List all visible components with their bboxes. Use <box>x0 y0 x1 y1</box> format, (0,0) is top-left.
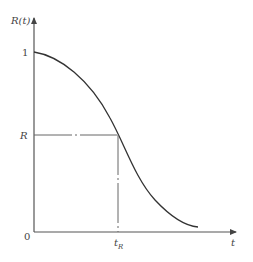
reliability-curve <box>34 52 198 227</box>
y-tick-one: 1 <box>22 47 28 58</box>
reliability-chart: R(t) 1 R 0 tR t <box>0 0 253 262</box>
x-tick-tr: tR <box>114 237 124 251</box>
y-tick-r: R <box>19 130 28 141</box>
x-axis-label: t <box>231 237 236 248</box>
origin-label: 0 <box>24 231 30 242</box>
y-axis-label: R(t) <box>10 15 30 26</box>
